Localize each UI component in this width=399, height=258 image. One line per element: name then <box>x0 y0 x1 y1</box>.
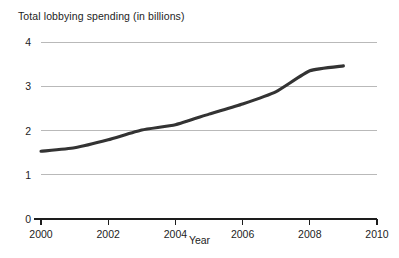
y-tick-label: 1 <box>25 169 31 181</box>
spending-trend-line <box>41 66 343 151</box>
y-axis-tick-labels: 01234 <box>25 36 31 225</box>
y-tick-label: 2 <box>25 125 31 137</box>
y-tick-label: 0 <box>25 213 31 225</box>
gridlines-group <box>41 42 377 175</box>
plot-area: 01234 200020022004200620082010 <box>0 0 399 258</box>
x-axis-tick-marks <box>41 219 377 225</box>
x-axis-label: Year <box>0 234 399 246</box>
y-tick-label: 3 <box>25 80 31 92</box>
y-tick-label: 4 <box>25 36 31 48</box>
plot-svg: 01234 200020022004200620082010 <box>0 0 399 258</box>
line-chart-figure: Total lobbying spending (in billions) 01… <box>0 0 399 258</box>
data-series-line <box>41 66 343 151</box>
